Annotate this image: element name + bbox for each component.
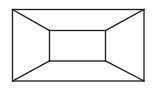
bottom-right-connector	[106, 61, 145, 81]
top-right-connector	[106, 10, 145, 31]
inner-rectangle	[50, 31, 106, 62]
perspective-box-diagram	[0, 0, 156, 98]
bottom-left-connector	[13, 61, 50, 81]
top-left-connector	[13, 10, 50, 31]
